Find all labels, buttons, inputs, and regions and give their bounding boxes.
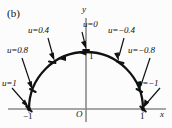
annotation-u-minus-0-8: u=−0.8: [128, 46, 155, 55]
leader-um1: [146, 88, 160, 104]
annotation-u-1: u=1: [2, 79, 16, 88]
dot-apex: [84, 49, 88, 53]
curve-mark-um08: [137, 89, 143, 92]
x-tick-label-minus1: −1: [23, 112, 33, 121]
origin-label: O: [76, 110, 83, 119]
direction-arrows: [57, 50, 87, 61]
leader-u08: [22, 58, 31, 85]
panel-label: (b): [7, 8, 20, 19]
leader-head-um04: [115, 53, 118, 59]
leader-head-u1: [23, 101, 28, 107]
x-axis-label: x: [160, 110, 164, 119]
leader-head-u04: [50, 53, 54, 59]
leader-head-u08: [28, 82, 32, 88]
y-tick-label-1: 1: [89, 52, 94, 61]
annotation-u-0: u=0: [83, 20, 97, 29]
annotation-u-minus-0-4: u=−0.4: [108, 26, 135, 35]
y-axis-label: y: [82, 5, 86, 14]
annotation-u-0-8: u=0.8: [7, 46, 28, 55]
annotation-u-minus-1: u=−1: [138, 79, 158, 88]
x-tick-label-1: 1: [140, 112, 145, 121]
leader-um04: [119, 38, 124, 56]
annotation-u-0-4: u=0.4: [28, 26, 49, 35]
leader-head-u0: [82, 42, 86, 48]
figure-panel: (b) y x O −1 1 1 u=1 u=0.8 u=0.4 u=0 u=−…: [0, 0, 172, 128]
